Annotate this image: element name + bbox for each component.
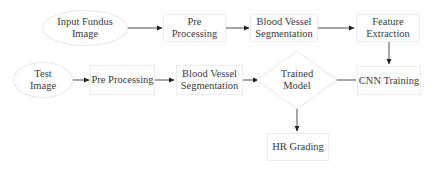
node-label: Trained Model <box>281 68 313 92</box>
node-label: Pre Processing <box>91 74 153 86</box>
node-label: Blood Vessel Segmentation <box>181 68 239 92</box>
node-label: Test Image <box>30 68 56 92</box>
node-input-fundus-image: Input Fundus Image <box>42 10 128 46</box>
node-pre-processing-test: Pre Processing <box>90 65 155 95</box>
node-label: HR Grading <box>272 141 324 153</box>
node-blood-vessel-segmentation-test: Blood Vessel Segmentation <box>176 65 243 95</box>
node-pre-processing-train: Pre Processing <box>163 14 226 42</box>
node-label: Pre Processing <box>164 16 225 40</box>
node-label: CNN Training <box>359 75 419 87</box>
node-hr-grading: HR Grading <box>267 133 329 161</box>
node-cnn-training: CNN Training <box>357 66 421 95</box>
node-label: Input Fundus Image <box>57 16 113 40</box>
node-label: Blood Vessel Segmentation <box>255 16 313 40</box>
node-feature-extraction: Feature Extraction <box>356 14 420 42</box>
flowchart-canvas: Input Fundus Image Pre Processing Blood … <box>0 0 432 169</box>
node-trained-model: Trained Model <box>262 62 332 98</box>
node-test-image: Test Image <box>13 62 73 98</box>
node-label: Feature Extraction <box>366 16 410 40</box>
node-blood-vessel-segmentation-train: Blood Vessel Segmentation <box>250 14 318 42</box>
